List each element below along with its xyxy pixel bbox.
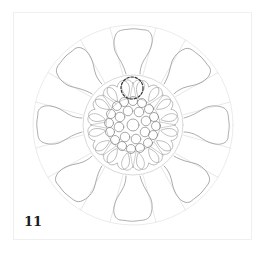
seed-center <box>105 97 161 154</box>
outer-guide-circle <box>33 25 233 225</box>
small-petals <box>87 79 179 171</box>
large-petals <box>37 29 230 222</box>
petal-spikes <box>90 82 176 168</box>
inner-guide-circle <box>83 75 183 175</box>
step-number-label: 11 <box>24 214 42 229</box>
